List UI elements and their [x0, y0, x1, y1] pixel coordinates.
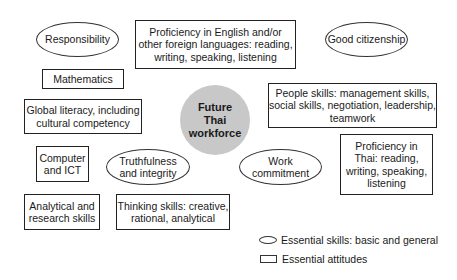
box-global-literacy: Global literacy, including cultural comp… — [24, 99, 142, 134]
legend-skills: Essential skills: basic and general — [259, 234, 438, 246]
ellipse-legend-icon — [259, 236, 277, 244]
ellipse-good-citizenship: Good citizenship — [325, 22, 408, 57]
ellipse-truthfulness-integrity: Truthfulness and integrity — [106, 149, 190, 185]
box-proficiency-thai: Proficiency in Thai: reading, writing, s… — [340, 134, 433, 195]
ellipse-responsibility: Responsibility — [36, 22, 119, 57]
box-thinking-skills: Thinking skills: creative, rational, ana… — [116, 194, 230, 230]
legend-skills-label: Essential skills: basic and general — [281, 234, 438, 246]
center-future-thai-workforce: Future Thai workforce — [180, 85, 250, 155]
rectangle-legend-icon — [260, 255, 277, 263]
ellipse-work-commitment: Work commitment — [239, 149, 322, 185]
legend-attitudes-label: Essential attitudes — [282, 253, 367, 265]
box-computer-ict: Computer and ICT — [36, 146, 89, 182]
box-analytical-research: Analytical and research skills — [24, 194, 100, 230]
box-proficiency-english: Proficiency in English and/or other fore… — [135, 20, 296, 69]
legend-attitudes: Essential attitudes — [260, 253, 367, 265]
box-mathematics: Mathematics — [42, 69, 124, 89]
box-people-skills: People skills: management skills, social… — [268, 83, 437, 128]
